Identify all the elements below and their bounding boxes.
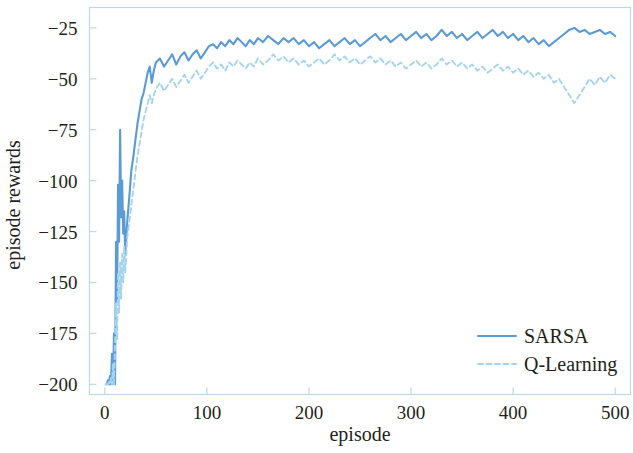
y-tick-label-−25: −25 (48, 18, 78, 39)
x-tick-label-300: 300 (397, 402, 426, 423)
x-tick-label-500: 500 (601, 402, 630, 423)
y-axis-tick-marks (90, 28, 97, 384)
legend-label-sarsa: SARSA (524, 325, 589, 347)
episode-rewards-line-chart: 0100200300400500 −200−175−150−125−100−75… (0, 0, 633, 453)
x-axis-title: episode (329, 423, 390, 446)
legend-label-qlearning: Q-Learning (524, 353, 617, 376)
x-tick-label-400: 400 (499, 402, 528, 423)
x-axis-tick-marks (105, 388, 615, 395)
y-tick-label-−100: −100 (38, 171, 77, 192)
chart-figure: 0100200300400500 −200−175−150−125−100−75… (0, 0, 633, 453)
y-tick-label-−200: −200 (38, 374, 77, 395)
y-tick-label-−50: −50 (48, 69, 78, 90)
y-tick-label-−125: −125 (38, 222, 77, 243)
x-tick-label-100: 100 (193, 402, 222, 423)
x-tick-label-200: 200 (295, 402, 324, 423)
y-tick-label-−75: −75 (48, 120, 78, 141)
y-tick-label-−150: −150 (38, 272, 77, 293)
y-axis-tick-labels: −200−175−150−125−100−75−50−25 (38, 18, 77, 395)
x-axis-tick-labels: 0100200300400500 (100, 402, 629, 423)
chart-legend: SARSA Q-Learning (478, 325, 617, 376)
x-tick-label-0: 0 (100, 402, 110, 423)
y-axis-title: episode rewards (2, 140, 25, 270)
y-tick-label-−175: −175 (38, 323, 77, 344)
